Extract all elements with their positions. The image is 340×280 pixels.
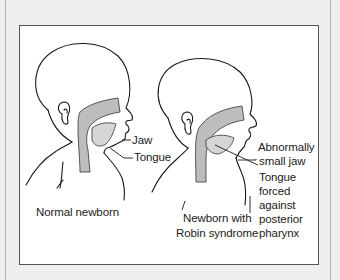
- tongue-forced-label-line3: against: [259, 199, 295, 212]
- tongue-forced-label-line1: Tongue: [259, 171, 296, 184]
- robin-caption-line1: Newborn with: [183, 212, 251, 225]
- tongue-forced-label-line4: posterior: [259, 213, 303, 226]
- airway-shading: [78, 98, 244, 182]
- jaw-label: Jaw: [132, 134, 152, 147]
- normal-newborn-caption: Normal newborn: [36, 206, 119, 219]
- tongue-forced-label-line5: pharynx: [259, 227, 299, 240]
- abnormally-small-jaw-label-line1: Abnormally: [258, 141, 315, 154]
- tongue-label: Tongue: [134, 151, 171, 164]
- tongue-forced-leader-line: [215, 145, 258, 165]
- callout-lines: [110, 140, 258, 213]
- robin-caption-leader-line: [182, 201, 185, 210]
- robin-caption-line2: Robin syndrome: [176, 227, 258, 240]
- tongue-leader-line: [110, 148, 133, 158]
- abnormally-small-jaw-label-line2: small jaw: [259, 155, 305, 168]
- tongue-forced-label-line2: forced: [259, 185, 290, 198]
